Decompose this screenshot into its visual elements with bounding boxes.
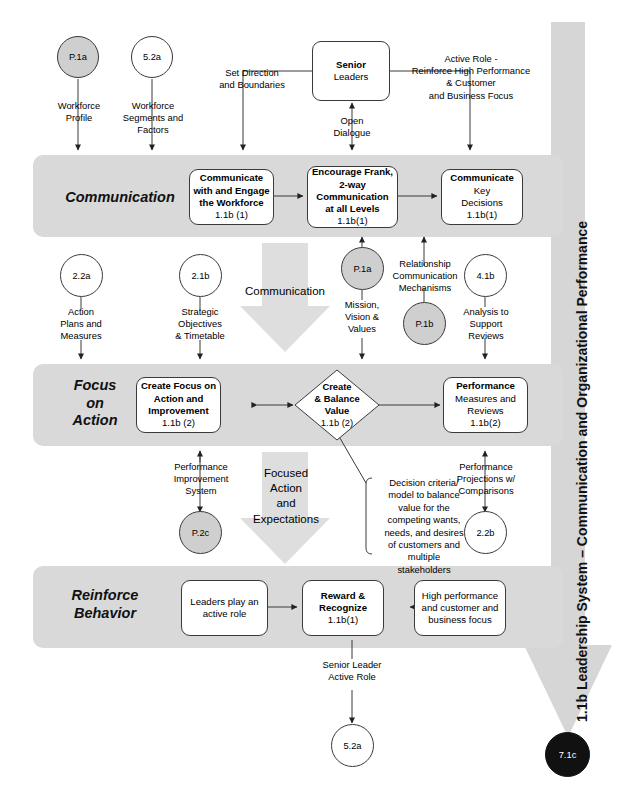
label-line: Action <box>233 481 339 496</box>
label-line: Action <box>36 306 126 318</box>
label-line: Performance <box>443 461 529 473</box>
label-communication-flow: Communication <box>218 284 352 299</box>
label-action-plans-and-measures: Action Plans and Measures <box>36 306 126 343</box>
circle-p2c[interactable]: P.2c <box>179 511 222 554</box>
label-open-dialogue: Open Dialogue <box>322 115 382 139</box>
label-line: Reviews <box>450 330 522 342</box>
box-line: Communication <box>312 191 393 203</box>
box-code: 1.1b(1) <box>319 614 367 626</box>
label-line: Mechanisms <box>384 282 466 294</box>
label-line: Performance <box>157 461 245 473</box>
box-line: Value <box>325 405 350 417</box>
box-reward-and-recognize[interactable]: Reward & Recognize 1.1b(1) <box>302 580 384 636</box>
box-line: Communicate <box>193 172 269 184</box>
circle-p1a-top[interactable]: P.1a <box>57 36 99 78</box>
box-line: & Balance <box>314 393 359 405</box>
box-performance-measures-and-reviews[interactable]: Performance Measures and Reviews 1.1b(2) <box>443 377 528 433</box>
diamond-text: Create & Balance Value 1.1b (2) <box>294 369 380 441</box>
circle-22a[interactable]: 2.2a <box>60 254 103 297</box>
band-label-communication: Communication <box>40 189 200 207</box>
box-line: Recognize <box>319 602 367 614</box>
box-line: Decisions <box>450 197 513 209</box>
box-senior-leaders[interactable]: Senior Leaders <box>312 41 390 101</box>
box-create-focus-on-action-and-improvement[interactable]: Create Focus on Action and Improvement 1… <box>136 377 221 433</box>
label-line: Plans and <box>36 318 126 330</box>
label-workforce-segments-and-factors: Workforce Segments and Factors <box>106 100 200 137</box>
band-label-reinforce-behavior: Reinforce Behavior <box>40 587 170 622</box>
note-line: stakeholders <box>372 564 476 576</box>
label-line: Relationship <box>384 258 466 270</box>
label-set-direction-and-boundaries: Set Direction and Boundaries <box>202 67 302 91</box>
box-line: Leaders play an <box>190 596 258 608</box>
band-label-focus-on-action: Focus on Action <box>40 377 150 430</box>
circle-22b[interactable]: 2.2b <box>464 511 507 554</box>
label-performance-improvement-system: Performance Improvement System <box>157 461 245 498</box>
box-line: 2-way <box>312 179 393 191</box>
label-line: Senior Leader <box>305 659 399 671</box>
box-line: Key <box>450 185 513 197</box>
circle-52a-top[interactable]: 5.2a <box>131 36 173 78</box>
box-code: 1.1b(1) <box>450 209 513 221</box>
label-line: and <box>233 496 339 511</box>
label-line: Workforce <box>106 100 200 112</box>
label-analysis-to-support-reviews: Analysis to Support Reviews <box>450 306 522 343</box>
box-line: Improvement <box>141 405 216 417</box>
label-active-role-reinforce: Active Role - Reinforce High Performance… <box>393 53 549 102</box>
box-communicate-key-decisions[interactable]: Communicate Key Decisions 1.1b(1) <box>441 169 523 225</box>
label-line: Reinforce High Performance <box>393 65 549 77</box>
box-line: Encourage Frank, <box>312 166 393 178</box>
label-line: Values <box>325 323 399 335</box>
box-line: Senior <box>334 59 369 71</box>
box-encourage-frank-2way-communication[interactable]: Encourage Frank, 2-way Communication at … <box>307 166 398 228</box>
box-line: and customer and <box>422 602 499 614</box>
label-mission-vision-values: Mission, Vision & Values <box>325 299 399 336</box>
box-line: Reviews <box>455 405 516 417</box>
box-code: 1.1b (2) <box>321 417 353 429</box>
box-line: at all Levels <box>312 203 393 215</box>
band-label-line: Action <box>40 412 150 430</box>
label-focused-action-and-expectations: Focused Action and Expectations <box>233 466 339 527</box>
vertical-system-title: 1.1b Leadership System – Communication a… <box>574 221 590 722</box>
note-line: competing wants, <box>372 514 476 526</box>
box-line: with and Engage <box>193 185 269 197</box>
box-line: Action and <box>141 393 216 405</box>
label-line: Expectations <box>233 512 339 527</box>
box-code: 1.1b (1) <box>193 209 269 221</box>
note-line: model to balance <box>372 489 476 501</box>
note-line: multiple <box>372 551 476 563</box>
circle-p1b-mid[interactable]: P.1b <box>403 302 446 345</box>
box-leaders-play-an-active-role[interactable]: Leaders play an active role <box>181 580 268 636</box>
box-line: Create <box>322 381 351 393</box>
label-strategic-objectives-timetable: Strategic Objectives & Timetable <box>155 306 245 343</box>
box-line: Leaders <box>334 71 369 83</box>
box-code: 1.1b(2) <box>455 417 516 429</box>
box-communicate-with-and-engage-the-workforce[interactable]: Communicate with and Engage the Workforc… <box>189 169 274 225</box>
label-senior-leader-active-role: Senior Leader Active Role <box>305 659 399 683</box>
label-line: Communication <box>384 270 466 282</box>
box-line: business focus <box>422 614 499 626</box>
circle-71c[interactable]: 7.1c <box>545 732 590 777</box>
box-code: 1.1b(1) <box>312 215 393 227</box>
label-relationship-communication-mechanisms: Relationship Communication Mechanisms <box>384 258 466 295</box>
label-line: Objectives <box>155 318 245 330</box>
box-line: the Workforce <box>193 197 269 209</box>
box-line: Performance <box>455 380 516 392</box>
circle-41b[interactable]: 4.1b <box>464 254 507 297</box>
label-line: Set Direction <box>202 67 302 79</box>
box-line: Create Focus on <box>141 380 216 392</box>
label-line: Factors <box>106 124 200 136</box>
note-line: needs, and desires <box>372 527 476 539</box>
label-line: Support <box>450 318 522 330</box>
band-label-line: Behavior <box>40 605 170 623</box>
box-code: 1.1b (2) <box>141 417 216 429</box>
shape-create-and-balance-value[interactable]: Create & Balance Value 1.1b (2) <box>294 369 380 441</box>
box-line: High performance <box>422 590 499 602</box>
box-line: Measures and <box>455 393 516 405</box>
label-line: Open <box>322 115 382 127</box>
circle-21b[interactable]: 2.1b <box>179 254 222 297</box>
box-high-performance-and-customer-and-business-focus[interactable]: High performance and customer and busine… <box>414 580 506 636</box>
note-line: value for the <box>372 502 476 514</box>
note-line: Decision criteria/ <box>372 477 476 489</box>
label-line: System <box>157 485 245 497</box>
circle-52a-bottom[interactable]: 5.2a <box>331 724 374 767</box>
